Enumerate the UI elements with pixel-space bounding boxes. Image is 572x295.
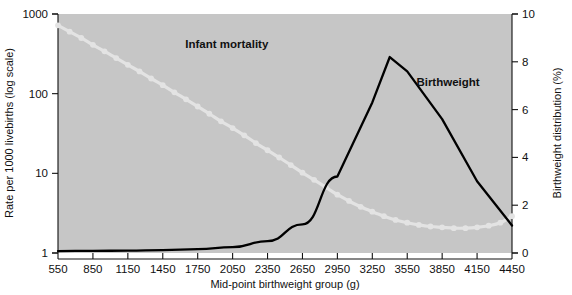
y-axis-tick-label: 1	[42, 247, 48, 259]
infant-mortality-data-point	[265, 147, 271, 153]
infant-mortality-data-point	[346, 198, 352, 204]
infant-mortality-data-point	[451, 225, 457, 231]
infant-mortality-data-point	[474, 224, 480, 230]
infant-mortality-data-point	[206, 111, 212, 117]
infant-mortality-data-point	[125, 62, 131, 68]
infant-mortality-data-point	[486, 223, 492, 229]
x-axis-tick-label: 3850	[429, 263, 455, 275]
infant-mortality-data-point	[416, 222, 422, 228]
x-axis-tick-label: 3550	[394, 263, 420, 275]
infant-mortality-data-point	[428, 224, 434, 230]
infant-mortality-data-point	[183, 96, 189, 102]
y-axis-tick-label: 100	[29, 88, 48, 100]
series-label-birthweight: Birthweight	[416, 76, 479, 88]
infant-mortality-data-point	[358, 204, 364, 210]
infant-mortality-data-point	[300, 170, 306, 176]
y-axis-tick-label: 10	[35, 167, 48, 179]
x-axis-tick-label: 850	[83, 263, 102, 275]
infant-mortality-data-point	[369, 209, 375, 215]
y2-axis-title: Birthweight distribution (%)	[551, 68, 563, 199]
infant-mortality-data-point	[288, 162, 294, 168]
x-axis-tick-label: 3250	[360, 263, 386, 275]
infant-mortality-data-point	[78, 35, 84, 41]
x-axis-tick-label: 1750	[185, 263, 211, 275]
x-axis-tick-label: 1150	[115, 263, 140, 275]
x-axis-tick-label: 2350	[255, 263, 281, 275]
x-axis-tick-label: 4150	[464, 263, 490, 275]
y2-axis-tick-label: 2	[522, 199, 528, 211]
y-axis-tick-label: 1000	[22, 8, 48, 20]
x-axis-tick-label: 4450	[499, 263, 525, 275]
infant-mortality-data-point	[148, 76, 154, 82]
y-axis-title: Rate per 1000 livebirths (log scale)	[3, 48, 15, 218]
infant-mortality-data-point	[497, 220, 503, 226]
infant-mortality-data-point	[230, 125, 236, 131]
birthweight-mortality-chart: 1000100101 1086420 550850115014501750205…	[0, 0, 572, 295]
left-axis: 1000100101	[22, 8, 58, 259]
infant-mortality-data-point	[102, 48, 108, 54]
x-axis-title: Mid-point birthweight group (g)	[210, 278, 359, 290]
y2-axis-tick-label: 0	[522, 247, 528, 259]
x-axis-tick-label: 2050	[220, 263, 246, 275]
series-label-infant-mortality: Infant mortality	[185, 38, 269, 50]
infant-mortality-data-point	[218, 118, 224, 124]
infant-mortality-data-point	[90, 42, 96, 48]
plot-area-background	[58, 14, 512, 253]
infant-mortality-data-point	[311, 177, 317, 183]
infant-mortality-data-point	[241, 132, 247, 138]
infant-mortality-data-point	[253, 140, 259, 146]
infant-mortality-data-point	[113, 55, 119, 61]
bottom-axis: 5508501150145017502050235026502950325035…	[48, 253, 524, 275]
figure-container: 1000100101 1086420 550850115014501750205…	[0, 0, 572, 295]
y2-axis-tick-label: 10	[522, 8, 535, 20]
infant-mortality-data-point	[393, 217, 399, 223]
y2-axis-tick-label: 4	[522, 151, 529, 163]
infant-mortality-data-point	[463, 225, 469, 231]
infant-mortality-data-point	[67, 29, 73, 35]
y2-axis-tick-label: 8	[522, 56, 528, 68]
x-axis-tick-label: 2950	[325, 263, 351, 275]
x-axis-tick-label: 550	[48, 263, 67, 275]
infant-mortality-data-point	[276, 155, 282, 161]
infant-mortality-data-point	[55, 22, 61, 28]
infant-mortality-data-point	[509, 213, 515, 219]
infant-mortality-data-point	[160, 82, 166, 88]
infant-mortality-data-point	[334, 192, 340, 198]
infant-mortality-data-point	[381, 213, 387, 219]
infant-mortality-data-point	[195, 104, 201, 110]
infant-mortality-data-point	[172, 89, 178, 95]
infant-mortality-data-point	[439, 224, 445, 230]
x-axis-tick-label: 2650	[290, 263, 316, 275]
right-axis: 1086420	[512, 8, 535, 259]
infant-mortality-data-point	[404, 220, 410, 226]
x-axis-tick-label: 1450	[150, 263, 176, 275]
infant-mortality-data-point	[137, 69, 143, 75]
y2-axis-tick-label: 6	[522, 104, 528, 116]
